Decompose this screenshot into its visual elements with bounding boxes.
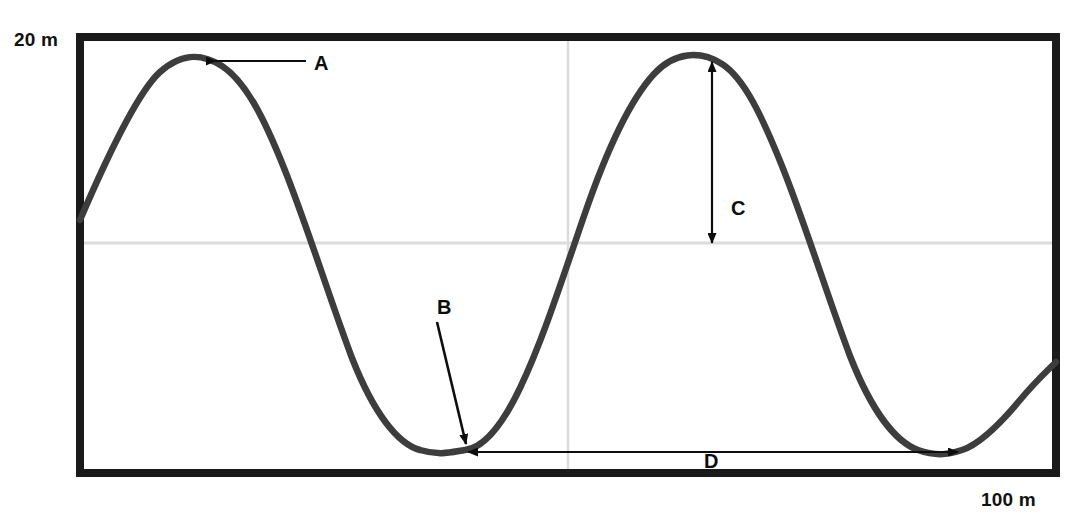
- annotation-label-b: B: [437, 296, 451, 319]
- annotation-label-c: C: [731, 197, 745, 220]
- annotation-label-a: A: [314, 52, 328, 75]
- annotation-label-d: D: [704, 450, 718, 473]
- wave-diagram-canvas: [0, 0, 1083, 524]
- x-axis-max-label: 100 m: [981, 489, 1036, 511]
- wave-diagram-figure: 20 m 100 m A B C D: [0, 0, 1083, 524]
- annotation-arrow-b: [437, 322, 466, 444]
- y-axis-max-label: 20 m: [14, 29, 58, 51]
